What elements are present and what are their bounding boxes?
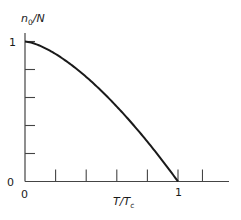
y-tick-label-0: 0: [7, 176, 14, 189]
y-ticks: [25, 42, 35, 154]
y-tick-label-1: 1: [9, 36, 16, 49]
x-ticks: [56, 170, 203, 182]
x-tick-label-1: 1: [175, 186, 182, 199]
x-tick-label-0: 0: [21, 188, 28, 201]
y-axis-label: n0/N: [21, 12, 45, 27]
data-line: [25, 42, 178, 182]
chart: n0/N 1 0 0 1 T/Tc: [0, 0, 241, 220]
axes: [25, 33, 229, 182]
x-axis-label: T/Tc: [113, 195, 134, 210]
